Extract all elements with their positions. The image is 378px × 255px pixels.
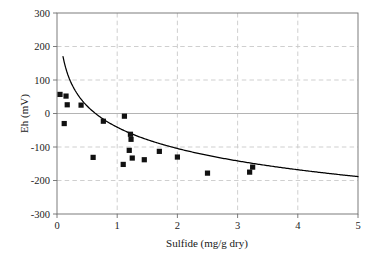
data-point-marker bbox=[127, 148, 132, 153]
y-tick-label: 100 bbox=[34, 75, 50, 86]
fit-curve bbox=[63, 57, 358, 177]
scatter-plot: -300-200-1000100200300012345 Sulfide (mg… bbox=[0, 0, 378, 255]
data-point-marker bbox=[247, 170, 252, 175]
x-tick-label: 5 bbox=[355, 220, 360, 231]
y-tick-label: 300 bbox=[34, 8, 50, 19]
data-point-marker bbox=[205, 171, 210, 176]
x-tick-label: 2 bbox=[175, 220, 180, 231]
y-tick-label: 200 bbox=[34, 41, 50, 52]
x-tick-label: 3 bbox=[235, 220, 240, 231]
data-point-marker bbox=[101, 119, 106, 124]
data-point-marker bbox=[121, 162, 126, 167]
data-point-marker bbox=[128, 132, 133, 137]
tick-labels: -300-200-1000100200300012345 bbox=[31, 8, 361, 231]
data-point-marker bbox=[175, 154, 180, 159]
y-tick-label: -100 bbox=[31, 142, 50, 153]
x-axis-title: Sulfide (mg/g dry) bbox=[166, 237, 248, 250]
data-point-marker bbox=[57, 92, 62, 97]
x-tick-label: 1 bbox=[115, 220, 120, 231]
data-point-marker bbox=[78, 103, 83, 108]
data-point-marker bbox=[157, 149, 162, 154]
data-point-marker bbox=[63, 93, 68, 98]
data-point-marker bbox=[122, 114, 127, 119]
data-point-marker bbox=[128, 137, 133, 142]
y-tick-label: -200 bbox=[31, 175, 50, 186]
x-tick-label: 4 bbox=[295, 220, 301, 231]
data-point-marker bbox=[65, 102, 70, 107]
x-tick-label: 0 bbox=[54, 220, 59, 231]
y-axis-title: Eh (mV) bbox=[18, 94, 31, 133]
fit-curve-path bbox=[63, 57, 358, 177]
chart-figure: -300-200-1000100200300012345 Sulfide (mg… bbox=[0, 0, 378, 255]
data-point-marker bbox=[130, 155, 135, 160]
y-tick-label: 0 bbox=[45, 108, 50, 119]
data-point-marker bbox=[250, 165, 255, 170]
data-markers bbox=[57, 92, 255, 176]
data-point-marker bbox=[142, 157, 147, 162]
data-point-marker bbox=[91, 155, 96, 160]
y-tick-label: -300 bbox=[31, 209, 50, 220]
data-point-marker bbox=[62, 121, 67, 126]
